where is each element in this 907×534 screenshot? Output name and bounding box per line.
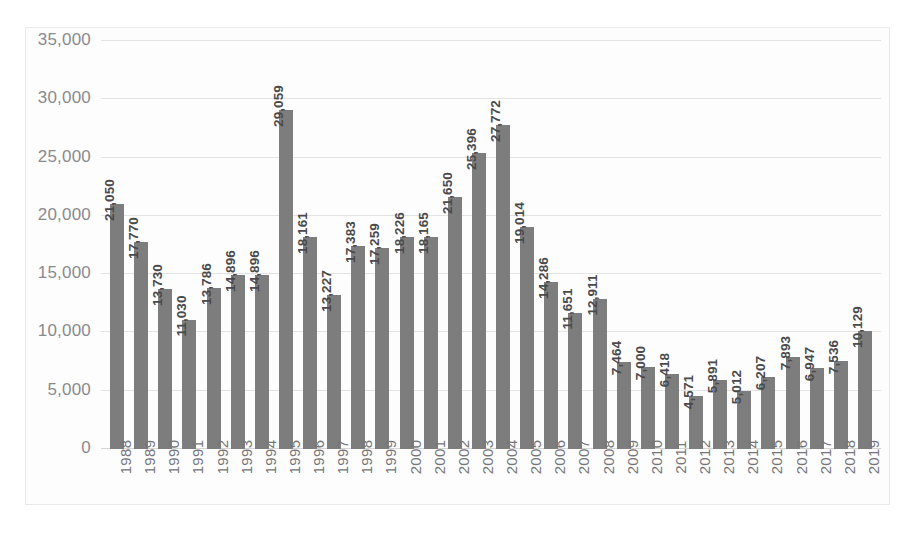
bar-value-label: 7,000	[633, 346, 648, 380]
bar-slot: 18,2262000	[395, 41, 419, 449]
bar[interactable]: 7,000	[641, 367, 655, 449]
bar-slot: 7,0002010	[636, 41, 660, 449]
bar[interactable]: 18,226	[400, 237, 414, 449]
bar-slot: 7,5362018	[829, 41, 853, 449]
bar-value-label: 13,227	[319, 270, 334, 312]
bar-value-label: 4,571	[681, 375, 696, 409]
bar[interactable]: 10,129	[858, 331, 872, 449]
bar[interactable]: 12,911	[593, 299, 607, 450]
bar-slot: 7,8932016	[781, 41, 805, 449]
bar-value-label: 12,911	[585, 274, 600, 315]
bar[interactable]: 29,059	[279, 110, 293, 449]
bar[interactable]: 11,030	[182, 320, 196, 449]
bar-value-label: 11,651	[560, 289, 575, 330]
y-axis-tick-label: 5,000	[47, 380, 91, 400]
bar-value-label: 18,226	[392, 212, 407, 254]
bar-value-label: 18,165	[416, 212, 431, 254]
bar-series: 21,050198817,770198913,730199011,0301991…	[101, 41, 881, 449]
bar-value-label: 11,030	[174, 296, 189, 337]
y-axis-tick-label: 10,000	[38, 321, 91, 341]
bar-value-label: 21,050	[102, 179, 117, 221]
bar-value-label: 6,947	[802, 347, 817, 381]
bar[interactable]: 25,396	[472, 153, 486, 449]
bar-value-label: 14,896	[247, 250, 262, 292]
bar-value-label: 7,464	[609, 341, 624, 375]
bar-value-label: 10,129	[850, 306, 865, 348]
bar-value-label: 21,650	[440, 172, 455, 214]
bar-slot: 14,8961993	[226, 41, 250, 449]
bar[interactable]: 13,786	[207, 288, 221, 449]
bar-slot: 17,2591999	[370, 41, 394, 449]
bar-value-label: 17,259	[367, 223, 382, 265]
bar[interactable]: 27,772	[496, 125, 510, 449]
bar[interactable]: 7,893	[786, 357, 800, 449]
bar-value-label: 5,891	[705, 359, 720, 393]
bar[interactable]: 13,730	[158, 289, 172, 449]
bar[interactable]: 17,259	[375, 248, 389, 449]
bar-slot: 12,9112008	[588, 41, 612, 449]
bar-value-label: 7,893	[778, 336, 793, 370]
bar-value-label: 5,012	[729, 369, 744, 403]
y-axis-tick-label: 35,000	[38, 30, 91, 50]
bar-slot: 6,2072015	[756, 41, 780, 449]
bar-slot: 19,0142005	[515, 41, 539, 449]
bar-value-label: 7,536	[826, 340, 841, 374]
bar[interactable]: 21,050	[110, 204, 124, 449]
bar[interactable]: 11,651	[568, 313, 582, 449]
bar[interactable]: 14,286	[544, 282, 558, 449]
bar-value-label: 19,014	[512, 202, 527, 244]
bar-slot: 13,7861992	[202, 41, 226, 449]
y-axis-tick-label: 30,000	[38, 88, 91, 108]
y-axis-tick-label: 20,000	[38, 205, 91, 225]
bar-slot: 11,6512007	[563, 41, 587, 449]
bar[interactable]: 6,947	[810, 368, 824, 449]
bar-value-label: 29,059	[271, 85, 286, 127]
bar-value-label: 6,418	[657, 353, 672, 387]
bar-slot: 18,1611996	[298, 41, 322, 449]
bar-slot: 6,9472017	[805, 41, 829, 449]
x-axis-tick-label: 2019	[865, 440, 882, 475]
bar[interactable]: 21,650	[448, 197, 462, 449]
bar-slot: 14,2862006	[539, 41, 563, 449]
bar[interactable]: 19,014	[520, 227, 534, 449]
y-axis-tick-label: 0	[81, 438, 91, 458]
bar-slot: 13,7301990	[153, 41, 177, 449]
bar-value-label: 13,786	[199, 263, 214, 305]
bar-slot: 7,4642009	[612, 41, 636, 449]
chart-frame: 05,00010,00015,00020,00025,00030,00035,0…	[25, 27, 890, 505]
bar[interactable]: 6,207	[761, 377, 775, 449]
bar-slot: 21,6502002	[443, 41, 467, 449]
bar[interactable]: 13,227	[327, 295, 341, 449]
bar[interactable]: 14,896	[231, 275, 245, 449]
bar[interactable]: 14,896	[255, 275, 269, 449]
bar-slot: 17,7701989	[129, 41, 153, 449]
bar-value-label: 27,772	[488, 100, 503, 142]
bar-value-label: 6,207	[753, 356, 768, 390]
bar-value-label: 13,730	[150, 264, 165, 306]
y-axis-tick-label: 25,000	[38, 147, 91, 167]
bar[interactable]: 17,770	[134, 242, 148, 449]
plot-area: 05,00010,00015,00020,00025,00030,00035,0…	[101, 41, 881, 449]
bar[interactable]: 5,891	[713, 380, 727, 449]
bar[interactable]: 18,161	[303, 237, 317, 449]
bar-value-label: 14,286	[536, 258, 551, 300]
bar-slot: 18,1652001	[419, 41, 443, 449]
bar-value-label: 17,770	[126, 217, 141, 259]
bar-value-label: 14,896	[223, 250, 238, 292]
bar[interactable]: 17,383	[351, 246, 365, 449]
bar-slot: 27,7722004	[491, 41, 515, 449]
bar-value-label: 17,383	[343, 221, 358, 263]
bar[interactable]: 18,165	[424, 237, 438, 449]
bar[interactable]: 6,418	[665, 374, 679, 449]
bar-value-label: 25,396	[464, 128, 479, 170]
bar[interactable]: 7,536	[834, 361, 848, 449]
bar[interactable]: 7,464	[617, 362, 631, 449]
bar-slot: 11,0301991	[177, 41, 201, 449]
bar-slot: 10,1292019	[853, 41, 877, 449]
y-axis-tick-label: 15,000	[38, 263, 91, 283]
bar-value-label: 18,161	[295, 212, 310, 254]
